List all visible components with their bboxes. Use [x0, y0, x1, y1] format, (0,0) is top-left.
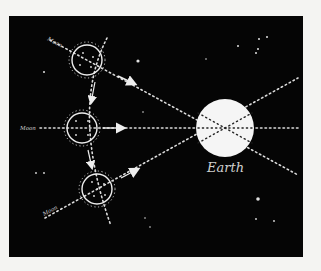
orbit-diagram: Earth Moon Moon Moon: [0, 0, 321, 271]
arrow-right-icon: [118, 76, 135, 84]
moon-label-middle: Moon: [19, 125, 36, 131]
moon-label-top: Moon: [46, 35, 64, 48]
earth-label: Earth: [206, 160, 244, 175]
moon-middle: Moon: [19, 110, 124, 168]
arrow-down-icon: [88, 150, 92, 168]
moon-top: Moon: [46, 35, 135, 103]
arrow-up-right-icon: [121, 169, 138, 178]
earth: Earth: [196, 99, 254, 175]
